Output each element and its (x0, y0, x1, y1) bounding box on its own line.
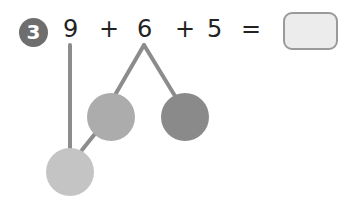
split-circle-left[interactable] (87, 93, 135, 141)
split-circle-right[interactable] (161, 93, 209, 141)
number-bond-diagram (0, 0, 356, 202)
sum-circle[interactable] (46, 148, 94, 196)
bond-line-6-left (115, 45, 144, 95)
bond-line-6-right (144, 45, 175, 96)
